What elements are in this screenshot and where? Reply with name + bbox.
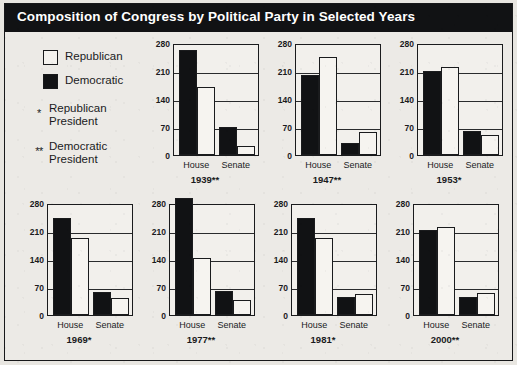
bar-2000-house-republican — [437, 227, 455, 315]
panel-caption-1977: 1977** — [141, 334, 261, 345]
plot-frame — [169, 204, 255, 316]
plot-area-1969: 070140210280 — [47, 204, 133, 316]
y-axis-tick-70: 70 — [401, 283, 410, 293]
bar-1981-house-democratic — [297, 218, 315, 315]
bar-1981-house-republican — [315, 238, 333, 315]
bar-1977-senate-democratic — [215, 291, 233, 315]
x-axis-label-house: House — [305, 160, 331, 170]
bar-1947-senate-republican — [359, 132, 377, 155]
x-axis-label-house: House — [423, 320, 449, 330]
plot-frame — [47, 204, 133, 316]
bar-1939-senate-democratic — [219, 127, 237, 155]
panels-grid: HouseSenate0701402102801939**HouseSenate… — [5, 32, 514, 360]
bar-1939-senate-republican — [237, 146, 255, 155]
y-axis-tick-210: 210 — [156, 67, 170, 77]
chart-panel-1953: HouseSenate0701402102801953* — [389, 38, 509, 196]
y-axis-tick-210: 210 — [30, 227, 44, 237]
bar-1947-senate-democratic — [341, 143, 359, 155]
y-axis-tick-0: 0 — [161, 311, 166, 321]
x-axis-label-house: House — [301, 320, 327, 330]
gridline-210 — [296, 73, 380, 74]
chart-panel-1981: HouseSenate0701402102801981* — [263, 198, 383, 356]
bar-1969-house-democratic — [53, 218, 71, 315]
plot-area-2000: 070140210280 — [413, 204, 499, 316]
bar-1981-senate-democratic — [337, 297, 355, 315]
x-axis-label-senate: Senate — [466, 160, 495, 170]
panel-caption-1969: 1969* — [19, 334, 139, 345]
x-axis-label-house: House — [183, 160, 209, 170]
y-axis-tick-0: 0 — [405, 311, 410, 321]
plot-frame — [291, 204, 377, 316]
y-axis-tick-280: 280 — [152, 199, 166, 209]
x-axis-label-house: House — [57, 320, 83, 330]
panel-caption-1939: 1939** — [145, 174, 265, 185]
y-axis-tick-140: 140 — [152, 255, 166, 265]
page-title: Composition of Congress by Political Par… — [17, 9, 415, 24]
x-axis-label-senate: Senate — [462, 320, 491, 330]
bar-1939-house-democratic — [179, 50, 197, 155]
plot-frame — [413, 204, 499, 316]
y-axis-tick-210: 210 — [400, 67, 414, 77]
bar-1969-senate-democratic — [93, 292, 111, 315]
plot-area-1953: 070140210280 — [417, 44, 503, 156]
panel-caption-1953: 1953* — [389, 174, 509, 185]
bar-1981-senate-republican — [355, 294, 373, 315]
chart-panel-1947: HouseSenate0701402102801947** — [267, 38, 387, 196]
x-axis-label-senate: Senate — [96, 320, 125, 330]
y-axis-tick-280: 280 — [156, 39, 170, 49]
y-axis-tick-280: 280 — [400, 39, 414, 49]
x-axis-label-senate: Senate — [340, 320, 369, 330]
y-axis-tick-280: 280 — [278, 39, 292, 49]
y-axis-tick-0: 0 — [409, 151, 414, 161]
plot-frame — [295, 44, 381, 156]
plot-area-1939: 070140210280 — [173, 44, 259, 156]
plot-area-1977: 070140210280 — [169, 204, 255, 316]
bar-1947-house-democratic — [301, 75, 319, 155]
bar-1977-senate-republican — [233, 300, 251, 315]
y-axis-tick-70: 70 — [283, 123, 292, 133]
chart-panel-1969: HouseSenate0701402102801969* — [19, 198, 139, 356]
bar-1953-house-republican — [441, 67, 459, 155]
panel-caption-2000: 2000** — [385, 334, 505, 345]
figure-root: Composition of Congress by Political Par… — [0, 0, 517, 365]
plot-frame — [173, 44, 259, 156]
y-axis-tick-210: 210 — [278, 67, 292, 77]
y-axis-tick-140: 140 — [400, 95, 414, 105]
chart-panel-2000: HouseSenate0701402102802000** — [385, 198, 505, 356]
plot-area-1981: 070140210280 — [291, 204, 377, 316]
x-axis-label-house: House — [427, 160, 453, 170]
bar-1953-senate-republican — [481, 135, 499, 155]
y-axis-tick-280: 280 — [30, 199, 44, 209]
y-axis-tick-280: 280 — [274, 199, 288, 209]
y-axis-tick-210: 210 — [274, 227, 288, 237]
bar-1977-house-republican — [193, 258, 211, 315]
bar-1969-senate-republican — [111, 298, 129, 315]
bar-1977-house-democratic — [175, 198, 193, 315]
x-axis-label-senate: Senate — [222, 160, 251, 170]
y-axis-tick-0: 0 — [287, 151, 292, 161]
plot-area-1947: 070140210280 — [295, 44, 381, 156]
y-axis-tick-70: 70 — [279, 283, 288, 293]
panel-caption-1981: 1981* — [263, 334, 383, 345]
x-axis-label-senate: Senate — [344, 160, 373, 170]
x-axis-label-house: House — [179, 320, 205, 330]
bar-1939-house-republican — [197, 87, 215, 155]
x-axis-label-senate: Senate — [218, 320, 247, 330]
y-axis-tick-140: 140 — [274, 255, 288, 265]
y-axis-tick-210: 210 — [396, 227, 410, 237]
bar-2000-house-democratic — [419, 230, 437, 315]
chart-panel-1939: HouseSenate0701402102801939** — [145, 38, 265, 196]
panel-caption-1947: 1947** — [267, 174, 387, 185]
chart-panel-1977: HouseSenate0701402102801977** — [141, 198, 261, 356]
y-axis-tick-70: 70 — [157, 283, 166, 293]
y-axis-tick-0: 0 — [283, 311, 288, 321]
y-axis-tick-0: 0 — [165, 151, 170, 161]
y-axis-tick-0: 0 — [39, 311, 44, 321]
bar-2000-senate-republican — [477, 293, 495, 315]
plot-frame — [417, 44, 503, 156]
bar-1969-house-republican — [71, 238, 89, 315]
y-axis-tick-210: 210 — [152, 227, 166, 237]
bar-1953-house-democratic — [423, 71, 441, 155]
y-axis-tick-280: 280 — [396, 199, 410, 209]
y-axis-tick-140: 140 — [156, 95, 170, 105]
